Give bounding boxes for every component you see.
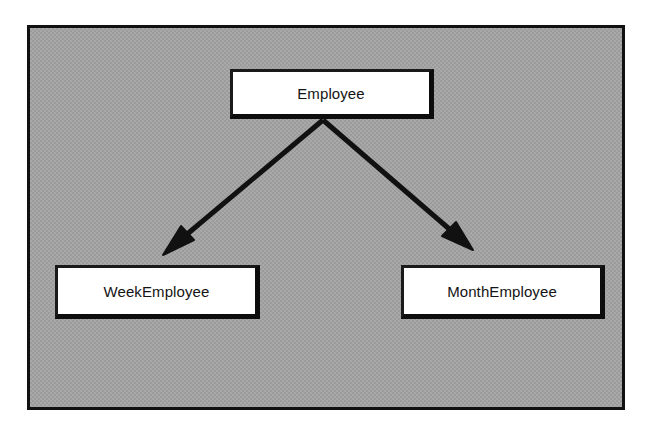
generalization-arrow-weekemployee (163, 120, 323, 255)
generalization-arrow-monthemployee (323, 120, 473, 250)
diagram-frame: Employee WeekEmployee MonthEmployee (27, 25, 625, 410)
class-name-monthemployee: MonthEmployee (447, 284, 557, 299)
class-box-monthemployee[interactable]: MonthEmployee (401, 265, 605, 319)
class-box-weekemployee[interactable]: WeekEmployee (55, 265, 260, 319)
class-box-employee[interactable]: Employee (230, 69, 434, 119)
class-name-weekemployee: WeekEmployee (104, 284, 210, 299)
class-name-employee: Employee (297, 86, 365, 101)
